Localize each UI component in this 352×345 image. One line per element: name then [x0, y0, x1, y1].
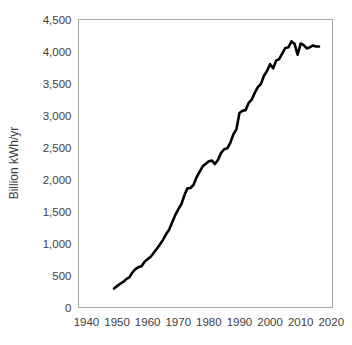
x-axis-tick-labels: 194019501960197019801990200020102020	[74, 316, 344, 328]
x-axis-tick-label: 1980	[196, 316, 222, 328]
x-axis-tick-label: 1950	[104, 316, 130, 328]
y-axis-tick-label: 2,500	[43, 142, 72, 154]
x-axis-tick-label: 1990	[227, 316, 253, 328]
line-chart: 05001,0001,5002,0002,5003,0003,5004,0004…	[0, 0, 352, 345]
y-axis-tick-label: 1,000	[43, 238, 72, 250]
x-axis-tick-label: 1970	[165, 316, 191, 328]
y-axis-tick-label: 0	[65, 302, 71, 314]
chart-container: 05001,0001,5002,0002,5003,0003,5004,0004…	[0, 0, 352, 345]
y-axis-tick-label: 2,000	[43, 174, 72, 186]
y-axis-tick-label: 4,500	[43, 14, 72, 26]
x-axis-tick-label: 1960	[135, 316, 161, 328]
y-axis-tick-label: 3,000	[43, 110, 72, 122]
x-axis-tick-label: 1940	[74, 316, 100, 328]
y-axis-tick-label: 3,500	[43, 78, 72, 90]
y-axis-tick-label: 4,000	[43, 46, 72, 58]
x-axis-tick-label: 2020	[318, 316, 344, 328]
y-axis-title: Billion kWh/yr	[7, 127, 21, 200]
y-axis-tick-label: 1,500	[43, 206, 72, 218]
x-axis-tick-label: 2010	[288, 316, 314, 328]
y-axis-tick-label: 500	[52, 270, 71, 282]
x-axis-tick-label: 2000	[257, 316, 283, 328]
